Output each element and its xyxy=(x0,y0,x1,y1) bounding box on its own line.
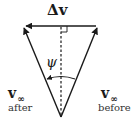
v-after-symbol: v xyxy=(8,85,16,101)
psi-angle-label: ψ xyxy=(46,55,57,69)
v-before-symbol: v xyxy=(101,85,109,101)
after-caption: after xyxy=(8,103,32,113)
before-caption: before xyxy=(98,103,131,113)
delta-v-label: Δv xyxy=(47,3,67,18)
right-angle-marker xyxy=(61,26,67,32)
v-inf-before-arrow xyxy=(61,28,97,117)
